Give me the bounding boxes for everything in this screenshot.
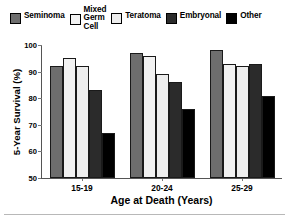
bar-embryonal-20-24[interactable] xyxy=(169,82,182,178)
bar-groups: 15-1920-2425-29 xyxy=(42,45,282,178)
legend-item-label: Mixed Germ Cell xyxy=(84,6,107,31)
bars-container xyxy=(122,45,202,178)
y-tick-label: 80 xyxy=(29,94,37,103)
bottom-divider xyxy=(4,214,285,215)
bar-group-20-24: 20-24 xyxy=(122,45,202,178)
y-axis-title: 5-Year Survival (%) xyxy=(11,68,22,154)
bar-teratoma-20-24[interactable] xyxy=(156,74,169,178)
x-tick-label: 25-29 xyxy=(231,183,252,193)
bar-teratoma-25-29[interactable] xyxy=(236,66,249,178)
bar-seminoma-25-29[interactable] xyxy=(210,50,223,178)
survival-bar-chart: SeminomaMixed Germ CellTeratomaEmbryonal… xyxy=(0,0,289,217)
legend-swatch-icon xyxy=(10,13,21,24)
legend-item-other: Other xyxy=(226,6,261,24)
bar-teratoma-15-19[interactable] xyxy=(76,66,89,178)
bar-embryonal-15-19[interactable] xyxy=(89,90,102,178)
bar-mixed-germ-cell-15-19[interactable] xyxy=(63,58,76,178)
legend-item-embryonal: Embryonal xyxy=(166,6,221,24)
bar-embryonal-25-29[interactable] xyxy=(249,64,262,178)
y-tick-label: 70 xyxy=(29,120,37,129)
y-tick-label: 60 xyxy=(29,147,37,156)
bar-seminoma-20-24[interactable] xyxy=(130,53,143,178)
bars-container xyxy=(42,45,122,178)
x-axis-title: Age at Death (Years) xyxy=(41,194,282,206)
legend-swatch-icon xyxy=(226,13,237,24)
y-tick-label: 50 xyxy=(29,174,37,183)
legend-item-mixed-germ-cell: Mixed Germ Cell xyxy=(70,6,107,31)
bar-mixed-germ-cell-20-24[interactable] xyxy=(143,56,156,178)
legend-swatch-icon xyxy=(166,13,177,24)
legend-item-seminoma: Seminoma xyxy=(10,6,65,24)
bar-group-15-19: 15-19 xyxy=(42,45,122,178)
legend-swatch-icon xyxy=(70,14,81,25)
x-tick-label: 15-19 xyxy=(71,183,92,193)
bar-group-25-29: 25-29 xyxy=(202,45,282,178)
legend-item-label: Other xyxy=(240,6,261,20)
plot-area: 5060708090100 5-Year Survival (%) 15-192… xyxy=(41,45,282,178)
x-axis-line xyxy=(41,178,282,179)
legend-item-label: Seminoma xyxy=(24,6,65,20)
bar-mixed-germ-cell-25-29[interactable] xyxy=(223,64,236,178)
legend-item-teratoma: Teratoma xyxy=(111,6,160,24)
x-tick-label: 20-24 xyxy=(151,183,172,193)
bar-other-20-24[interactable] xyxy=(182,109,195,178)
legend-swatch-icon xyxy=(111,13,122,24)
bar-other-15-19[interactable] xyxy=(102,133,115,178)
y-tick-label: 90 xyxy=(29,67,37,76)
bar-other-25-29[interactable] xyxy=(262,96,275,178)
chart-legend: SeminomaMixed Germ CellTeratomaEmbryonal… xyxy=(10,6,289,36)
legend-item-label: Teratoma xyxy=(125,6,160,20)
bars-container xyxy=(202,45,282,178)
y-tick-label: 100 xyxy=(24,41,37,50)
bar-seminoma-15-19[interactable] xyxy=(50,66,63,178)
legend-item-label: Embryonal xyxy=(180,6,221,20)
